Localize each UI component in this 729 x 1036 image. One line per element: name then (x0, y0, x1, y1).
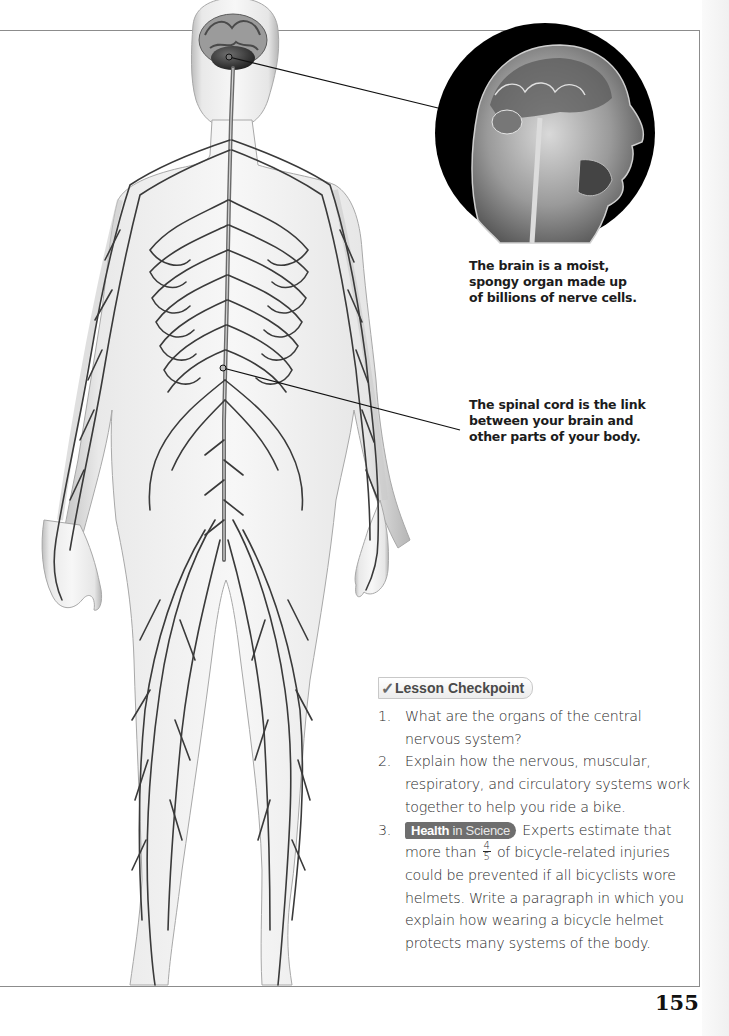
health-in-science-badge: Health in Science (405, 822, 516, 839)
body-silhouette (42, 0, 410, 985)
checkpoint-question-1: 1. What are the organs of the central ne… (378, 705, 698, 750)
caption-line: other parts of your body. (469, 429, 669, 445)
checkpoint-questions: 1. What are the organs of the central ne… (378, 705, 698, 955)
lesson-checkpoint: ✓ Lesson Checkpoint 1. What are the orga… (378, 677, 698, 955)
spinal-pointer-dot (220, 365, 226, 371)
question-number: 3. (378, 819, 391, 842)
check-mark-icon: ✓ (381, 679, 394, 698)
question-text: What are the organs of the central nervo… (405, 708, 641, 747)
caption-line: The spinal cord is the link (469, 397, 669, 413)
caption-line: of billions of nerve cells. (469, 290, 659, 306)
brain-caption: The brain is a moist, spongy organ made … (469, 258, 659, 306)
checkpoint-question-2: 2. Explain how the nervous, muscular, re… (378, 750, 698, 818)
question-text: Explain how the nervous, muscular, respi… (405, 753, 690, 814)
caption-line: between your brain and (469, 413, 669, 429)
caption-line: spongy organ made up (469, 274, 659, 290)
question-number: 2. (378, 750, 391, 773)
caption-line: The brain is a moist, (469, 258, 659, 274)
brain-pointer-dot (226, 54, 232, 60)
badge-rest-text: in Science (453, 823, 510, 838)
head-cross-section-image (435, 23, 655, 243)
badge-bold-text: Health (411, 823, 449, 838)
checkpoint-question-3: 3. Health in Science Experts estimate th… (378, 819, 698, 955)
lesson-checkpoint-title: Lesson Checkpoint (395, 680, 524, 696)
spinal-cord-caption: The spinal cord is the link between your… (469, 397, 669, 445)
question-number: 1. (378, 705, 391, 728)
fraction-denominator: 5 (483, 852, 491, 862)
question-text-after: of bicycle-related injuries could be pre… (405, 844, 684, 951)
lesson-checkpoint-badge: ✓ Lesson Checkpoint (378, 677, 533, 699)
fraction-four-fifths: 45 (483, 841, 491, 862)
page-number: 155 (655, 990, 699, 1015)
